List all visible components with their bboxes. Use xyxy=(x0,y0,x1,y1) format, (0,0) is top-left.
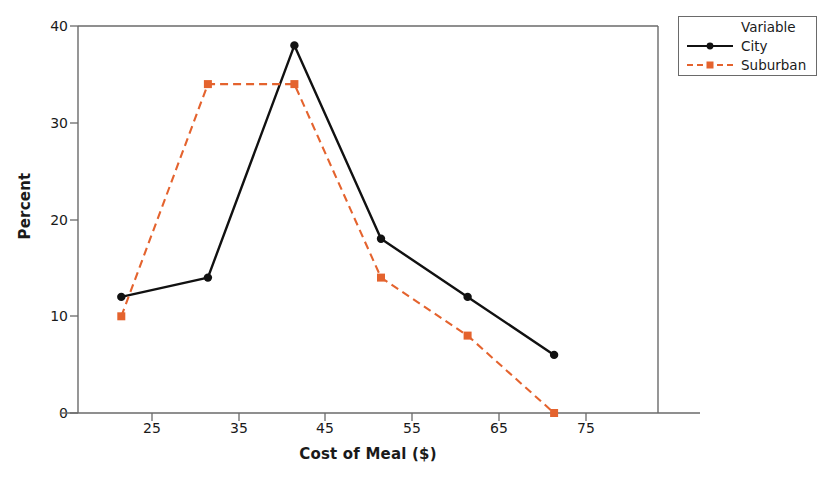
data-point-marker xyxy=(377,274,385,282)
series-line xyxy=(121,84,554,413)
y-tick-marks xyxy=(70,26,78,413)
data-series-layer xyxy=(117,41,558,417)
data-point-marker xyxy=(117,293,125,301)
data-point-marker xyxy=(290,80,298,88)
series-line xyxy=(121,45,554,355)
data-point-marker xyxy=(117,312,125,320)
series-suburban xyxy=(117,80,558,417)
legend-key-city-icon xyxy=(685,37,735,55)
series-city xyxy=(117,41,558,359)
data-point-marker xyxy=(377,235,385,243)
legend-label-suburban[interactable]: Suburban xyxy=(741,56,815,74)
data-point-marker xyxy=(464,332,472,340)
legend[interactable]: Variable City Suburban xyxy=(678,16,817,76)
legend-label-city[interactable]: City xyxy=(741,37,815,55)
legend-key-suburban-icon xyxy=(685,56,735,74)
axis-frame xyxy=(60,26,700,413)
data-point-marker xyxy=(550,351,558,359)
data-point-marker xyxy=(204,273,212,281)
data-point-marker xyxy=(550,409,558,417)
legend-title: Variable xyxy=(741,18,813,36)
x-tick-marks xyxy=(152,413,586,421)
data-point-marker xyxy=(463,293,471,301)
data-point-marker xyxy=(204,80,212,88)
chart-canvas: Percent 40 30 20 10 0 25 35 45 55 65 75 … xyxy=(0,0,826,477)
data-point-marker xyxy=(290,41,298,49)
